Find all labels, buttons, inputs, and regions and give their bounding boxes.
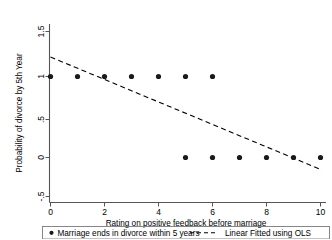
data-point: [102, 74, 107, 79]
data-point: [129, 74, 134, 79]
y-tick-label-0: 0: [36, 155, 46, 160]
y-tick-label-1: 1: [36, 74, 46, 79]
x-tick-label-2: 2: [102, 207, 107, 217]
ols-fit-line: [51, 57, 323, 170]
data-point: [183, 155, 188, 160]
x-tick-label-6: 6: [210, 207, 215, 217]
x-tick-label-0: 0: [48, 207, 53, 217]
chart-legend: Marriage ends in divorce within 5 years …: [43, 227, 330, 240]
data-point: [156, 74, 161, 79]
y-tick-label-1-5: 1.5: [36, 25, 46, 37]
y-axis-title: Probability of divorce by 5th Year: [15, 53, 24, 173]
scatter-plot: 1.5 1 .5 0 -.5 Probability of divorce by…: [0, 0, 332, 239]
data-point: [75, 74, 80, 79]
x-tick-label-4: 4: [156, 207, 161, 217]
y-tick-label-0-5: .5: [36, 116, 46, 123]
data-point: [48, 74, 53, 79]
data-point: [264, 155, 269, 160]
x-tick-label-10: 10: [316, 207, 326, 217]
data-point: [210, 74, 215, 79]
data-point: [291, 155, 296, 160]
y-tick-label-neg-0-5: -.5: [36, 191, 46, 201]
data-point: [237, 155, 242, 160]
data-point: [183, 74, 188, 79]
scatter-points-y0: [183, 155, 323, 160]
legend-label-fit: Linear Fitted using OLS: [225, 229, 312, 238]
data-point: [318, 155, 323, 160]
scatter-points-y1: [48, 74, 215, 79]
data-point: [210, 155, 215, 160]
chart-screenshot: 1.5 1 .5 0 -.5 Probability of divorce by…: [0, 0, 332, 239]
x-tick-label-8: 8: [264, 207, 269, 217]
legend-label-scatter: Marriage ends in divorce within 5 years: [58, 229, 200, 238]
legend-marker-icon: [49, 231, 53, 235]
